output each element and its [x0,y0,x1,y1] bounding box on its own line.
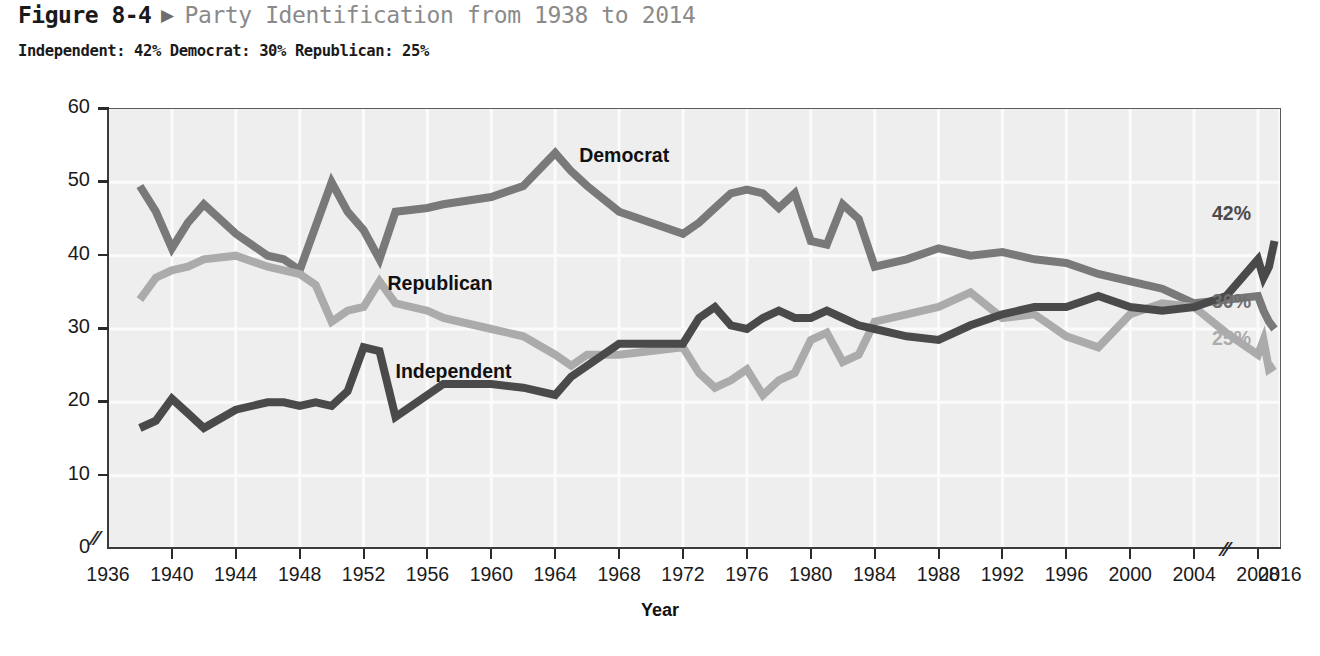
x-tick [235,549,237,559]
figure-number: Figure 8-4 [18,2,151,28]
y-tick [98,254,109,257]
y-tick [98,107,109,110]
series-label-democrat: Democrat [579,144,669,167]
figure-subtitle: Independent: 42% Democrat: 30% Republica… [18,42,429,60]
x-tick [1001,549,1003,559]
y-tick-label: 30 [38,315,90,338]
y-tick [98,400,109,403]
figure-title: Party Identification from 1938 to 2014 [184,2,695,28]
series-line-democrat [140,153,1275,329]
x-tick [363,549,365,559]
chart-canvas [108,109,1280,549]
y-tick-label: 60 [38,95,90,118]
y-tick [98,474,109,477]
x-tick [810,549,812,559]
series-label-republican: Republican [388,272,493,295]
x-tick [1129,549,1131,559]
y-tick-label: 50 [38,168,90,191]
x-tick-label: 2016 [1242,563,1318,586]
x-axis-line [107,547,1281,549]
y-tick-label: 10 [38,462,90,485]
x-tick [938,549,940,559]
figure-page: Figure 8-4 ▶ Party Identification from 1… [0,0,1320,656]
series-line-independent [140,241,1275,428]
y-tick-label: 0 [38,535,90,558]
end-value-label-independent: 42% [1212,202,1251,225]
end-value-label-republican: 25% [1212,327,1251,350]
x-tick [874,549,876,559]
x-tick [1065,549,1067,559]
figure-header: Figure 8-4 ▶ Party Identification from 1… [18,2,695,28]
triangle-right-icon: ▶ [161,7,174,24]
series-label-independent: Independent [396,360,512,383]
chart-plot-area [108,108,1281,549]
x-tick [1193,549,1195,559]
y-tick [98,180,109,183]
x-tick [746,549,748,559]
x-axis-title: Year [0,600,1320,621]
x-tick [490,549,492,559]
x-axis-break-icon: ⁄⁄ [1222,538,1229,559]
x-tick [682,549,684,559]
x-tick [299,549,301,559]
y-axis-break-icon: ⁄⁄ [92,527,99,548]
y-tick-label: 20 [38,388,90,411]
x-tick [554,549,556,559]
x-tick [171,549,173,559]
x-tick [618,549,620,559]
x-tick [1257,549,1259,559]
y-tick-label: 40 [38,242,90,265]
end-value-label-democrat: 30% [1212,290,1251,313]
y-tick [98,327,109,330]
x-tick [426,549,428,559]
